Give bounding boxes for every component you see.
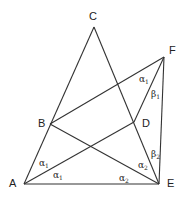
point-label-E: E: [167, 177, 174, 189]
segment-FE: [159, 57, 164, 184]
segment-AC: [24, 27, 94, 184]
angle-label-beta1: β1: [151, 89, 160, 100]
point-label-C: C: [89, 10, 97, 22]
point-label-B: B: [38, 117, 45, 129]
diagram-svg: ABCDEF α1β1β2α2α2α1α1: [0, 0, 184, 199]
angle-label-alpha1: α1: [53, 170, 63, 181]
angle-label-alpha1: α1: [139, 74, 149, 85]
geometry-diagram: ABCDEF α1β1β2α2α2α1α1: [0, 0, 184, 199]
angle-label-alpha1: α1: [39, 158, 49, 169]
segment-AD: [24, 122, 134, 184]
angle-label-beta2: β2: [151, 149, 160, 160]
point-label-F: F: [169, 44, 176, 56]
angle-labels: α1β1β2α2α2α1α1: [39, 74, 160, 184]
angle-label-alpha2: α2: [138, 160, 148, 171]
angle-label-alpha2: α2: [119, 173, 129, 184]
segment-BE: [50, 124, 159, 184]
point-label-A: A: [9, 177, 17, 189]
segment-CE: [94, 27, 159, 184]
segment-BF: [50, 57, 164, 124]
point-label-D: D: [142, 117, 150, 129]
segment-FD: [134, 57, 164, 122]
